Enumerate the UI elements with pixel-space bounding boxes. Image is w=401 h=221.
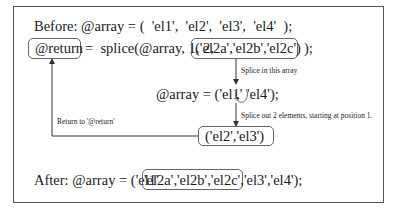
gap-marker — [235, 89, 247, 102]
return-arrow — [49, 58, 198, 136]
connectors — [0, 0, 401, 221]
splice-in-arrow — [233, 59, 239, 85]
splice-out-arrow — [233, 103, 239, 127]
